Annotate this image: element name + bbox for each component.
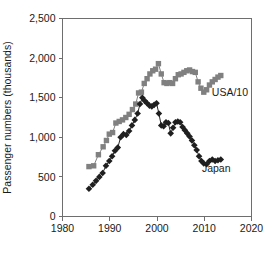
data-point-marker: [156, 61, 161, 66]
x-tick-label-0: 1980: [51, 222, 75, 234]
data-point-marker: [195, 79, 200, 84]
data-point-marker: [100, 144, 105, 149]
data-point-marker: [156, 110, 163, 117]
data-point-marker: [193, 70, 198, 75]
data-point-marker: [104, 138, 109, 143]
data-point-marker: [126, 112, 131, 117]
y-tick-label-5: 2,500: [29, 12, 55, 24]
data-point-marker: [129, 122, 136, 129]
series-label-usa-10: USA/10: [212, 86, 248, 98]
data-point-marker: [159, 71, 164, 76]
data-point-marker: [204, 87, 209, 92]
axis-tick-labels: 05001,0001,5002,0002,5001980199020002010…: [29, 12, 263, 233]
data-point-marker: [134, 110, 141, 117]
data-point-marker: [130, 107, 135, 112]
y-axis-title-group: Passenger numbers (thousands): [1, 41, 13, 193]
x-tick-label-4: 2020: [240, 222, 264, 234]
y-axis-title: Passenger numbers (thousands): [1, 41, 13, 193]
x-tick-label-3: 2010: [193, 222, 217, 234]
data-point-marker: [144, 76, 149, 81]
y-tick-label-4: 2,000: [29, 52, 55, 64]
series-line-japan: [89, 98, 221, 189]
data-point-marker: [86, 164, 91, 169]
data-point-marker: [103, 163, 110, 170]
y-tick-label-3: 1,500: [29, 91, 55, 103]
x-tick-label-2: 2000: [145, 222, 169, 234]
x-tick-label-1: 1990: [98, 222, 122, 234]
data-point-marker: [142, 81, 147, 86]
data-point-marker: [110, 130, 115, 135]
data-point-marker: [218, 73, 223, 78]
data-point-marker: [170, 81, 175, 86]
chart-svg: 05001,0001,5002,0002,5001980199020002010…: [0, 0, 271, 257]
y-tick-label-2: 1,000: [29, 131, 55, 143]
y-tick-label-0: 0: [50, 210, 56, 222]
data-point-marker: [153, 66, 158, 71]
data-point-marker: [91, 163, 96, 168]
chart-container: 05001,0001,5002,0002,5001980199020002010…: [0, 0, 271, 257]
data-point-marker: [131, 117, 138, 124]
data-point-marker: [139, 89, 144, 94]
data-point-marker: [96, 152, 101, 157]
series-label-japan: Japan: [202, 162, 231, 174]
series-line-usa-10: [89, 64, 221, 167]
y-tick-label-1: 500: [38, 171, 56, 183]
